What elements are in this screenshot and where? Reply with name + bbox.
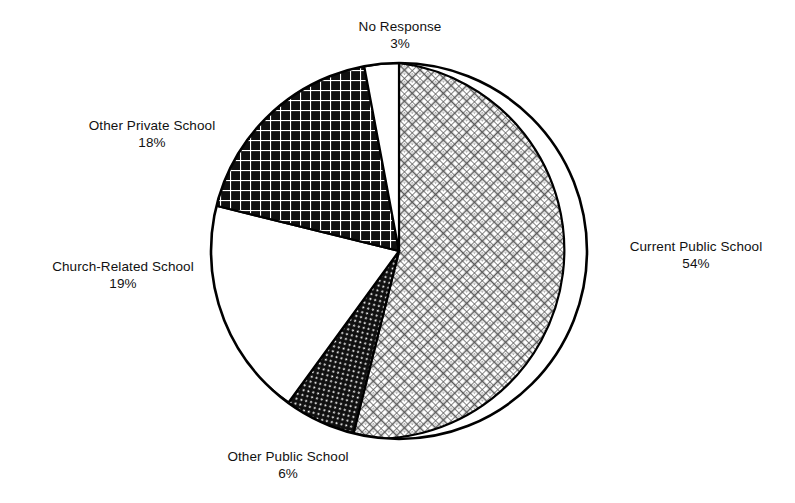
pie-chart-page: No Response 3% Other Private School 18% … xyxy=(0,0,795,503)
pie-label-current-public-school-name: Current Public School xyxy=(596,238,795,255)
pie-label-other-private-school: Other Private School 18% xyxy=(44,117,260,151)
pie-label-current-public-school: Current Public School 54% xyxy=(596,238,795,272)
pie-label-church-related-school: Church-Related School 19% xyxy=(14,258,232,292)
pie-label-no-response: No Response 3% xyxy=(302,18,498,52)
pie-label-church-related-school-name: Church-Related School xyxy=(14,258,232,275)
pie-label-other-private-school-name: Other Private School xyxy=(44,117,260,134)
pie-label-church-related-school-value: 19% xyxy=(14,275,232,292)
pie-label-other-public-school-value: 6% xyxy=(180,465,396,482)
pie-label-no-response-name: No Response xyxy=(302,18,498,35)
pie-slices-group xyxy=(207,63,564,439)
pie-label-current-public-school-value: 54% xyxy=(596,255,795,272)
pie-label-other-public-school-name: Other Public School xyxy=(180,448,396,465)
pie-label-no-response-value: 3% xyxy=(302,35,498,52)
pie-label-other-private-school-value: 18% xyxy=(44,134,260,151)
pie-label-other-public-school: Other Public School 6% xyxy=(180,448,396,482)
